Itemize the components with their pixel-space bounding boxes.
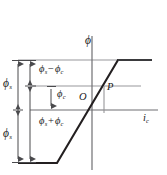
point-p-label: P: [107, 82, 113, 93]
dimension-phi-c: [47, 87, 56, 107]
figure-canvas: [0, 0, 167, 175]
phi-s-minus-phi-c-operator: −: [47, 63, 55, 74]
phi-s-plus-phi-c-rhs-sub: c: [61, 120, 64, 127]
phi-s-plus-phi-c-lhs: ϕ: [39, 115, 44, 126]
annotation-phi-c: ϕc: [57, 89, 65, 100]
phi-s-upper-label: ϕs: [3, 78, 12, 90]
saturation-curve: [18, 60, 152, 163]
annotation-phi-s-plus-phi-c: ϕs+ϕc: [39, 116, 63, 127]
phi-s-minus-phi-c-rhs: ϕ: [55, 63, 60, 74]
horizontal-axis-label: ic: [143, 113, 149, 124]
phi-s-minus-phi-c-rhs-sub: c: [61, 68, 64, 75]
saturation-curve-figure: ϕ ic O P ϕs ϕs ϕs−ϕc ϕc ϕs+ϕc: [0, 0, 167, 175]
dimension-outer-phi-s: [12, 61, 25, 163]
phi-s-plus-phi-c-operator: +: [47, 115, 55, 126]
annotation-phi-s-minus-phi-c: ϕs−ϕc: [39, 64, 63, 75]
horizontal-axis-label-subscript: c: [146, 117, 149, 124]
phi-s-upper-subscript: s: [9, 83, 12, 91]
dimension-inner-phi-s: [25, 61, 36, 163]
phi-s-minus-phi-c-lhs: ϕ: [39, 63, 44, 74]
phi-s-lower-label: ϕs: [3, 128, 12, 140]
phi-s-plus-phi-c-rhs: ϕ: [55, 115, 60, 126]
phi-s-plus-phi-c-lhs-sub: s: [45, 120, 48, 127]
vertical-axis-label: ϕ: [85, 35, 91, 47]
phi-c-symbol: ϕ: [57, 88, 62, 99]
phi-s-lower-subscript: s: [9, 133, 12, 141]
origin-label: O: [79, 92, 87, 103]
phi-c-subscript: c: [63, 93, 66, 100]
phi-s-minus-phi-c-lhs-sub: s: [45, 68, 48, 75]
